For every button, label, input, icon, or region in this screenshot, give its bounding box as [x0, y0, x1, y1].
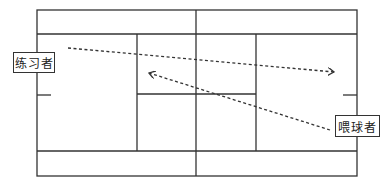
court-diagram [0, 0, 388, 189]
feeder-label-text: 喂球者 [338, 118, 377, 135]
practitioner-label: 练习者 [13, 52, 55, 73]
feeder-label: 喂球者 [335, 115, 380, 137]
practitioner-label-text: 练习者 [15, 54, 54, 71]
feeder-shot-arrow [149, 73, 330, 130]
practitioner-shot-arrow [68, 48, 334, 72]
